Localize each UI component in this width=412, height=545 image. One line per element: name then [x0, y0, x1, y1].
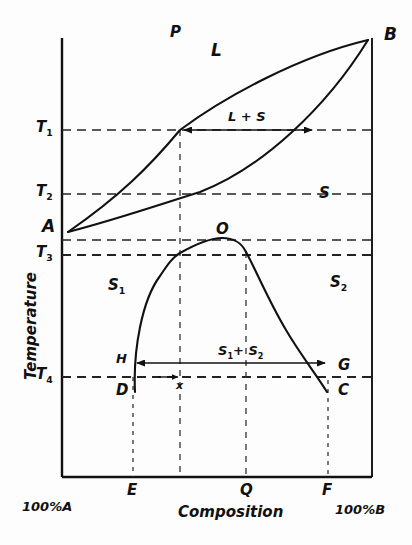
tie-S2-sub: 2 — [258, 352, 264, 361]
point-label-G: G — [338, 358, 350, 373]
tick-T2-base: T — [36, 182, 46, 200]
horizontal-guides — [62, 130, 372, 377]
tie-line-label-L-plus-S: L + S — [228, 110, 266, 123]
tick-T2-sub: 2 — [46, 191, 52, 202]
vertical-guides — [133, 130, 328, 477]
point-label-B: B — [384, 26, 397, 43]
region-S2-base: S — [330, 273, 341, 291]
tick-label-T3: T3 — [36, 245, 53, 262]
tie-plus-sign: + — [233, 343, 244, 358]
tick-label-E: E — [127, 483, 137, 498]
region-label-S2: S2 — [330, 275, 347, 292]
tie-line-label-S1-plus-S2: S1+ S2 — [218, 344, 263, 361]
tick-label-Q: Q — [240, 483, 253, 498]
x-axis-right-end-label: 100%B — [335, 503, 385, 516]
tick-T4-base: T — [36, 365, 46, 383]
plot-frame — [62, 38, 372, 477]
point-label-x: x — [176, 380, 183, 391]
tick-label-T2: T2 — [36, 184, 53, 201]
phase-diagram-figure: Temperature Composition 100%A 100%B T1 T… — [0, 0, 412, 545]
tick-T3-base: T — [36, 243, 46, 261]
point-label-H: H — [116, 352, 127, 365]
point-label-C: C — [338, 383, 349, 398]
tick-label-F: F — [322, 483, 332, 498]
point-label-D: D — [116, 383, 128, 398]
tie-S2-base: S — [248, 343, 257, 358]
tick-T4-sub: 4 — [46, 374, 52, 385]
solvus-right-curve — [246, 252, 327, 392]
region-S2-sub: 2 — [341, 282, 347, 293]
liquidus-curve — [68, 40, 368, 232]
region-label-S: S — [319, 186, 330, 201]
x-axis-left-end-label: 100%A — [22, 500, 72, 513]
tick-T1-sub: 1 — [46, 127, 52, 138]
point-label-O: O — [216, 222, 229, 237]
phase-boundaries — [68, 40, 368, 392]
x-axis-title: Composition — [178, 505, 283, 520]
tick-label-T4: T4 — [36, 367, 53, 384]
region-S1-sub: 1 — [119, 285, 125, 296]
region-S1-base: S — [108, 276, 119, 294]
tie-lines — [137, 130, 325, 377]
solidus-curve — [68, 40, 368, 232]
region-label-P: P — [170, 25, 181, 40]
tie-S1-base: S — [218, 343, 227, 358]
solvus-left-curve — [135, 253, 180, 392]
region-label-L: L — [211, 42, 222, 59]
tick-T1-base: T — [36, 118, 46, 136]
tick-label-T1: T1 — [36, 120, 53, 137]
point-label-A: A — [42, 218, 55, 235]
region-label-S1: S1 — [108, 278, 125, 295]
diagram-canvas — [0, 0, 412, 545]
y-axis-title: Temperature — [24, 272, 39, 380]
tick-T3-sub: 3 — [46, 252, 52, 263]
